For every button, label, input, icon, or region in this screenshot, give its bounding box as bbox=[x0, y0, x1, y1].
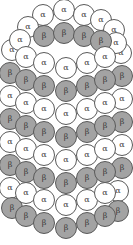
beta-tubulin-subunit: β bbox=[33, 25, 55, 47]
beta-tubulin-subunit: β bbox=[94, 69, 116, 91]
beta-tubulin-subunit: β bbox=[33, 121, 55, 143]
beta-tubulin-subunit: β bbox=[55, 126, 77, 148]
beta-tubulin-subunit: β bbox=[55, 80, 77, 102]
beta-tubulin-subunit: β bbox=[55, 217, 77, 239]
alpha-tubulin-subunit: α bbox=[55, 103, 77, 125]
beta-tubulin-subunit: β bbox=[53, 22, 75, 44]
beta-tubulin-subunit: β bbox=[33, 167, 55, 189]
alpha-tubulin-subunit: α bbox=[94, 46, 116, 68]
beta-tubulin-subunit: β bbox=[94, 115, 116, 137]
alpha-tubulin-subunit: α bbox=[55, 194, 77, 216]
alpha-tubulin-subunit: α bbox=[94, 138, 116, 160]
beta-tubulin-subunit: β bbox=[94, 205, 116, 227]
alpha-tubulin-subunit: α bbox=[33, 52, 55, 74]
microtubule-diagram: ααββααββααββααββααααααααββββαααααβββββαα… bbox=[0, 0, 133, 245]
beta-tubulin-subunit: β bbox=[33, 75, 55, 97]
alpha-tubulin-subunit: α bbox=[53, 0, 75, 21]
beta-tubulin-subunit: β bbox=[55, 172, 77, 194]
alpha-tubulin-subunit: α bbox=[55, 149, 77, 171]
beta-tubulin-subunit: β bbox=[33, 212, 55, 234]
alpha-tubulin-subunit: α bbox=[33, 144, 55, 166]
alpha-tubulin-subunit: α bbox=[33, 98, 55, 120]
beta-tubulin-subunit: β bbox=[94, 161, 116, 183]
alpha-tubulin-subunit: α bbox=[94, 182, 116, 204]
alpha-tubulin-subunit: α bbox=[33, 189, 55, 211]
alpha-tubulin-subunit: α bbox=[55, 57, 77, 79]
alpha-tubulin-subunit: α bbox=[94, 92, 116, 114]
